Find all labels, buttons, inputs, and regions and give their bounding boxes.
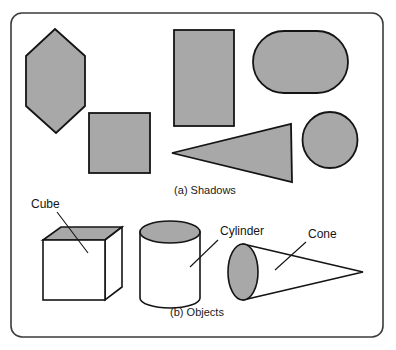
caption-b: (b) Objects xyxy=(170,306,224,318)
cylinder-object xyxy=(140,221,200,308)
cube-object xyxy=(43,227,122,300)
cone-label: Cone xyxy=(308,227,337,241)
cube-label: Cube xyxy=(31,197,60,211)
figure-svg: (a) Shadows Cube xyxy=(0,0,396,350)
figure-container: (a) Shadows Cube xyxy=(0,0,396,350)
cone-base-ellipse xyxy=(228,244,258,300)
cube-side-face xyxy=(105,227,122,300)
caption-a: (a) Shadows xyxy=(174,184,236,196)
square-shadow xyxy=(89,113,150,173)
cylinder-top-ellipse xyxy=(140,221,200,243)
stadium-shadow xyxy=(253,31,348,93)
cube-front-face xyxy=(43,240,105,300)
circle-shadow xyxy=(303,112,358,168)
rectangle-shadow xyxy=(174,30,234,126)
cylinder-label: Cylinder xyxy=(220,224,264,238)
